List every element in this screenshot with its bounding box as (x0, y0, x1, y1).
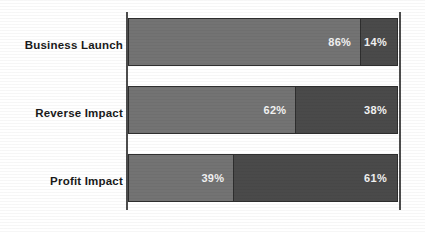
category-label-business-launch: Business Launch (0, 38, 123, 52)
category-label-reverse-impact: Reverse Impact (0, 106, 123, 120)
bar-value-label-a-profit-impact: 39% (201, 172, 233, 184)
bar-segment-a-reverse-impact: 62% (128, 86, 295, 134)
bar-row-reverse-impact: 62% 38% (128, 86, 398, 134)
bar-value-label-b-reverse-impact: 38% (364, 104, 397, 116)
bar-segment-b-reverse-impact: 38% (295, 86, 398, 134)
bar-segment-b-business-launch: 14% (360, 18, 398, 66)
bar-row-profit-impact: 39% 61% (128, 154, 398, 202)
bar-value-label-a-reverse-impact: 62% (263, 104, 295, 116)
bar-segment-a-profit-impact: 39% (128, 154, 233, 202)
stacked-bar-chart: Business Launch 86% 14% Reverse Impact 6… (0, 0, 425, 232)
bar-value-label-b-business-launch: 14% (364, 36, 397, 48)
bar-segment-a-business-launch: 86% (128, 18, 360, 66)
bar-value-label-b-profit-impact: 61% (364, 172, 397, 184)
bar-segment-b-profit-impact: 61% (233, 154, 398, 202)
axis-line-right (399, 12, 401, 210)
category-label-profit-impact: Profit Impact (0, 174, 123, 188)
bar-value-label-a-business-launch: 86% (328, 36, 360, 48)
bar-row-business-launch: 86% 14% (128, 18, 398, 66)
